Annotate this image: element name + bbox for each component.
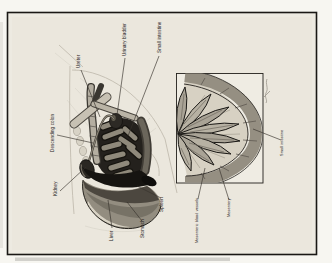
ureter-label: Ureter bbox=[76, 54, 81, 68]
small-intestine-label: Small intestine bbox=[157, 21, 162, 53]
scan-smudge-left bbox=[0, 22, 3, 248]
liver-label: Liver bbox=[109, 230, 114, 241]
spleen-label: Spleen bbox=[159, 197, 164, 212]
scan-smudge-bottom bbox=[15, 258, 230, 262]
kidney-label: Kidney bbox=[53, 181, 58, 196]
urinary-bladder-label: Urinary bladder bbox=[122, 23, 127, 56]
anatomy-figure-svg: Descending colon Ureter Urinary bladder … bbox=[0, 0, 332, 263]
descending-colon-label: Descending colon bbox=[50, 113, 55, 152]
scanned-page: Descending colon Ureter Urinary bladder … bbox=[0, 0, 332, 263]
mesenteric-blood-vessels-label: Mesenteric blood vessels bbox=[195, 198, 199, 243]
inset-small-intestine-label: Small intestine bbox=[280, 130, 284, 156]
mesentery-label: Mesentery bbox=[227, 198, 231, 217]
stomach-label: Stomach bbox=[140, 219, 145, 238]
